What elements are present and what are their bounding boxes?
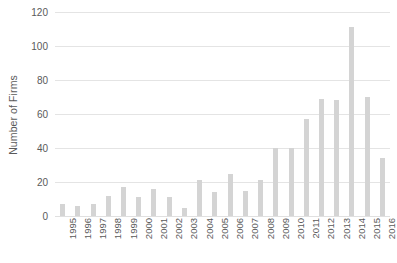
bar (380, 158, 385, 216)
x-axis-tick-label: 1995 (67, 218, 78, 239)
bar (319, 99, 324, 216)
x-axis-tick-label: 2001 (158, 218, 169, 239)
x-axis-tick-label: 2011 (310, 218, 321, 238)
y-axis-tick-label: 0 (42, 211, 48, 222)
y-axis-tick-label: 60 (37, 109, 48, 120)
x-axis-tick-label: 2016 (386, 218, 397, 239)
bar (334, 100, 339, 216)
x-axis-tick-label: 2000 (143, 218, 154, 239)
bar (258, 180, 263, 216)
x-axis-tick-label: 2007 (249, 218, 260, 239)
x-axis-tick-label: 1998 (112, 218, 123, 239)
bar (91, 204, 96, 216)
bar (289, 148, 294, 216)
y-axis-tick-label: 20 (37, 177, 48, 188)
x-axis-tick-label: 2002 (173, 218, 184, 239)
x-axis-tick-label: 2004 (204, 218, 215, 239)
y-axis-tick-label: 100 (31, 41, 48, 52)
bar (304, 119, 309, 216)
y-axis-tick-labels: 020406080100120 (26, 0, 52, 230)
x-axis-tick-label: 2005 (219, 218, 230, 239)
x-axis-tick-label: 2010 (295, 218, 306, 239)
x-axis-tick-label: 1997 (97, 218, 108, 239)
bar (197, 180, 202, 216)
x-axis-tick-label: 2003 (188, 218, 199, 239)
y-axis-tick-label: 80 (37, 75, 48, 86)
bar (273, 148, 278, 216)
y-axis-title-text: Number of Firms (7, 75, 19, 155)
x-axis-tick-label: 1996 (82, 218, 93, 239)
x-axis-tick-label: 1999 (128, 218, 139, 239)
bar (136, 197, 141, 216)
bar (182, 208, 187, 217)
bar (167, 197, 172, 216)
bar (365, 97, 370, 216)
bar (243, 191, 248, 217)
bar (151, 189, 156, 216)
y-axis-tick-label: 40 (37, 143, 48, 154)
x-axis-tick-labels: 1995199619971998199920002001200220032004… (55, 218, 390, 263)
x-axis-tick-label: 2012 (325, 218, 336, 239)
bar (349, 27, 354, 216)
bar (106, 196, 111, 216)
x-axis-tick-label: 2013 (341, 218, 352, 239)
bar (75, 206, 80, 216)
plot-area (55, 0, 390, 230)
x-axis-tick-label: 2006 (234, 218, 245, 239)
y-axis-title: Number of Firms (0, 0, 26, 230)
x-axis-tick-label: 2014 (356, 218, 367, 239)
x-axis-tick-label: 2015 (371, 218, 382, 239)
bar (228, 174, 233, 217)
x-axis-tick-label: 2009 (280, 218, 291, 239)
y-axis-tick-label: 120 (31, 7, 48, 18)
bar (121, 187, 126, 216)
x-axis-tick-label: 2008 (265, 218, 276, 239)
bars-series (55, 0, 390, 230)
bar (60, 204, 65, 216)
bar (212, 192, 217, 216)
